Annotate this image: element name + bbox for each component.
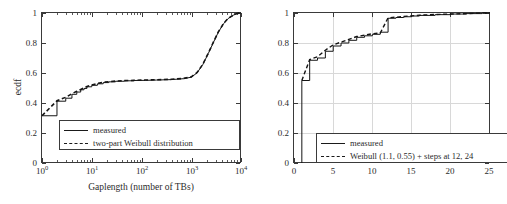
x-tick-label-d3: 103 bbox=[186, 166, 198, 176]
y-tick-label-1: 0.2 bbox=[278, 129, 289, 138]
x-tick-label-d2: 102 bbox=[136, 166, 148, 176]
x-tick-exp-d4: 4 bbox=[244, 164, 247, 171]
y-tick-label-4: 0.8 bbox=[278, 39, 289, 48]
legend-gaplength[interactable]: measured two-part Weibull distribution bbox=[59, 120, 240, 150]
x-tick-exp-d3: 3 bbox=[195, 164, 198, 171]
x-tick-label-3: 15 bbox=[407, 166, 416, 176]
x-tick-d4-top bbox=[241, 13, 242, 17]
panel-burstlength: ecdf 0 0.2 0.4 0.6 bbox=[253, 0, 507, 204]
legend-line-dashed-icon bbox=[320, 151, 346, 161]
legend-line-solid-icon bbox=[320, 138, 346, 148]
x-tick-label-0: 0 bbox=[292, 166, 297, 176]
legend-row-measured[interactable]: measured bbox=[63, 123, 236, 136]
x-tick-label-1: 5 bbox=[331, 166, 336, 176]
x-tick-label-5: 25 bbox=[485, 166, 494, 176]
legend-line-dashed-icon bbox=[63, 138, 89, 148]
x-tick-label-4: 20 bbox=[446, 166, 455, 176]
y-tick-label-0: 0 bbox=[285, 159, 290, 168]
y-tick-label-2: 0.4 bbox=[278, 99, 289, 108]
curve-weibull-steps bbox=[302, 13, 490, 81]
x-axis-title-left: Gaplength (number of TBs) bbox=[41, 182, 241, 193]
y-tick-label-1: 0.2 bbox=[26, 129, 37, 138]
curve-two-part-weibull bbox=[42, 13, 241, 116]
x-tick-label-d4: 104 bbox=[235, 166, 247, 176]
x-tick-base-d0: 10 bbox=[36, 166, 45, 176]
legend-label-weibull: Weibull (1.1, 0.55) + steps at 12, 24 bbox=[350, 151, 473, 161]
legend-row-measured[interactable]: measured bbox=[320, 136, 507, 149]
x-tick-exp-d0: 0 bbox=[45, 164, 48, 171]
x-tick-exp-d2: 2 bbox=[145, 164, 148, 171]
legend-row-weibull[interactable]: two-part Weibull distribution bbox=[63, 136, 236, 149]
x-tick-base-d1: 10 bbox=[86, 166, 95, 176]
y-tick-0-right bbox=[485, 163, 489, 164]
y-tick-0-right bbox=[236, 163, 240, 164]
x-tick-label-d0: 100 bbox=[36, 166, 48, 176]
x-tick-base-d3: 10 bbox=[186, 166, 195, 176]
x-tick-base-d4: 10 bbox=[235, 166, 244, 176]
panel-gaplength: ecdf 0 0.2 0.4 0.6 0.8 1 bbox=[0, 0, 253, 204]
y-axis-title-left: ecdf bbox=[13, 67, 23, 107]
y-tick-label-3: 0.6 bbox=[278, 69, 289, 78]
legend-label-measured: measured bbox=[93, 125, 126, 135]
legend-label-weibull: two-part Weibull distribution bbox=[93, 138, 193, 148]
figure-container: ecdf 0 0.2 0.4 0.6 0.8 1 bbox=[0, 0, 507, 204]
y-tick-label-5: 1 bbox=[285, 9, 290, 18]
x-tick-label-d1: 101 bbox=[86, 166, 98, 176]
legend-line-solid-icon bbox=[63, 125, 89, 135]
y-tick-label-4: 0.8 bbox=[26, 39, 37, 48]
x-tick-exp-d1: 1 bbox=[95, 164, 98, 171]
plot-area-burstlength: 0 0.2 0.4 0.6 0.8 1 0 5 1 bbox=[293, 12, 490, 163]
y-tick-label-3: 0.6 bbox=[26, 69, 37, 78]
x-tick-d4 bbox=[241, 158, 242, 162]
y-tick-0 bbox=[294, 163, 298, 164]
legend-label-measured: measured bbox=[350, 138, 383, 148]
legend-row-weibull[interactable]: Weibull (1.1, 0.55) + steps at 12, 24 bbox=[320, 149, 507, 162]
legend-burstlength[interactable]: measured Weibull (1.1, 0.55) + steps at … bbox=[316, 133, 507, 163]
x-tick-label-2: 10 bbox=[368, 166, 377, 176]
curve-measured bbox=[42, 13, 241, 116]
y-tick-label-2: 0.4 bbox=[26, 99, 37, 108]
y-tick-label-5: 1 bbox=[33, 9, 38, 18]
x-tick-base-d2: 10 bbox=[136, 166, 145, 176]
